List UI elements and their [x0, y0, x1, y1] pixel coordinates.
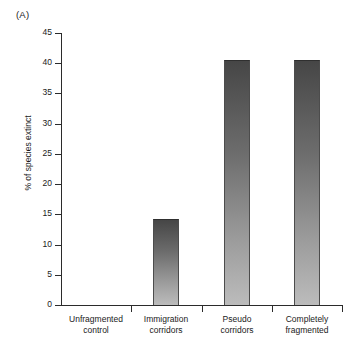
x-axis-category-label-line: Completely [272, 314, 342, 325]
y-axis-tick-label-text: 10 [43, 240, 52, 249]
figure-panel-a: (A) % of species extinct 454035302520151… [0, 0, 354, 358]
x-axis-category-label-line: Immigration [131, 314, 201, 325]
x-axis-category-label-line: fragmented [272, 325, 342, 336]
x-axis-category-label: Pseudocorridors [202, 314, 272, 336]
x-axis-category-label-line: Unfragmented [61, 314, 131, 325]
y-axis-tick-mark [55, 184, 61, 185]
panel-label: (A) [16, 9, 29, 20]
y-axis-tick-mark [55, 154, 61, 155]
x-axis-category-label-line: control [61, 325, 131, 336]
y-axis-tick-label-text: 20 [43, 179, 52, 188]
y-axis-tick-mark [55, 275, 61, 276]
x-axis-tick-mark [272, 306, 273, 312]
y-axis-tick-mark [55, 214, 61, 215]
y-axis-tick-label-text: 5 [47, 270, 52, 279]
x-axis-tick-mark [202, 306, 203, 312]
x-axis-category-label: Completelyfragmented [272, 314, 342, 336]
bar-3 [224, 60, 250, 305]
bar-4 [294, 60, 320, 305]
x-axis-category-label-line: Pseudo [202, 314, 272, 325]
y-axis-title: % of species extinct [23, 73, 33, 233]
y-axis-tick-mark [55, 124, 61, 125]
y-axis-tick-label-text: 15 [43, 209, 52, 218]
y-axis-tick-mark [55, 305, 61, 306]
y-axis-tick-label-text: 35 [43, 88, 52, 97]
y-axis-tick-label-text: 25 [43, 149, 52, 158]
x-axis-category-label-line: corridors [202, 325, 272, 336]
y-axis-tick-label-text: 45 [43, 28, 52, 37]
x-axis-category-label-line: corridors [131, 325, 201, 336]
y-axis-line [61, 33, 62, 306]
bar-2 [153, 219, 179, 305]
y-axis-tick-label-text: 0 [47, 300, 52, 309]
y-axis-tick-mark [55, 245, 61, 246]
x-axis-category-label: Immigrationcorridors [131, 314, 201, 336]
x-axis-category-label: Unfragmentedcontrol [61, 314, 131, 336]
y-axis-tick-mark [55, 93, 61, 94]
x-axis-tick-mark [131, 306, 132, 312]
y-axis-tick-mark [55, 63, 61, 64]
y-axis-tick-label-text: 30 [43, 119, 52, 128]
y-axis-tick-label-text: 40 [43, 58, 52, 67]
x-axis-tick-mark [342, 306, 343, 312]
y-axis-tick-mark [55, 33, 61, 34]
